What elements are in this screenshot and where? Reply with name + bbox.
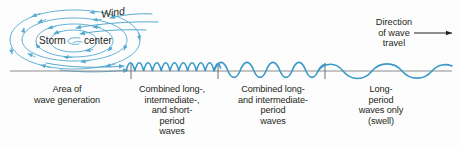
storm-spiral-group — [10, 10, 140, 69]
storm-inflow-arrows — [11, 12, 140, 68]
caption-combined-long-and-intermediate: Combined long- and intermediate- period … — [218, 84, 328, 126]
spiral-core — [68, 38, 80, 45]
storm-label: Storm — [39, 35, 66, 46]
spiral-ring-outer — [10, 10, 140, 69]
wave-train-intermediate-period — [214, 62, 325, 77]
wave-dispersion-figure: Wind Storm center Direction of wave trav… — [0, 0, 459, 148]
caption-combined-long-intermediate-short: Combined long-, intermediate-, and short… — [126, 84, 218, 137]
caption-long-period-waves-only-swell: Long- period waves only (swell) — [340, 84, 422, 126]
caption-area-of-wave-generation: Area of wave generation — [8, 84, 126, 105]
direction-of-wave-travel-label: Direction of wave travel — [372, 17, 416, 49]
spiral-core-2 — [73, 42, 82, 43]
wave-train-short-period — [126, 63, 221, 71]
center-label: center — [84, 35, 112, 46]
